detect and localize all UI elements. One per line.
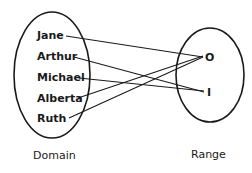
domain-caption: Domain xyxy=(33,149,76,162)
range-item-o: O xyxy=(205,51,214,64)
domain-item-ruth: Ruth xyxy=(37,112,66,125)
range-ellipse xyxy=(176,28,244,122)
domain-item-jane: Jane xyxy=(36,29,64,42)
range-item-i: I xyxy=(207,86,211,99)
mapping-diagram: Jane Arthur Michael Alberta Ruth O I Dom… xyxy=(0,0,252,173)
domain-item-arthur: Arthur xyxy=(37,50,78,63)
map-alberta-to-o xyxy=(78,56,203,98)
domain-item-michael: Michael xyxy=(37,71,85,84)
domain-item-alberta: Alberta xyxy=(37,92,83,105)
range-caption: Range xyxy=(191,148,226,161)
